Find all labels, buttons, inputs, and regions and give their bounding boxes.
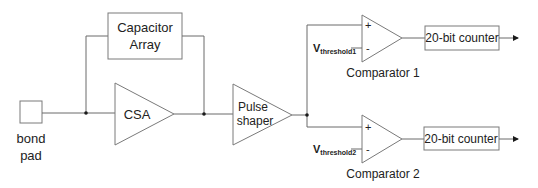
threshold-1-label: Vthreshold1 <box>313 42 356 55</box>
bond-pad-square <box>20 101 42 123</box>
pulse-shaper-label-line2: shaper <box>237 114 274 128</box>
comparator-2-minus-sign: - <box>366 143 370 155</box>
csa-amplifier: CSA <box>115 83 174 145</box>
wire-feedback-left <box>86 36 108 113</box>
bond-pad: bond pad <box>17 101 46 163</box>
signal-chain-diagram: bond pad Capacitor Array CSA Pulse shape… <box>0 0 538 188</box>
counter-1-label: 20-bit counter <box>425 31 498 45</box>
capacitor-array: Capacitor Array <box>108 13 182 59</box>
junction-dot-csa-output <box>202 112 206 116</box>
bond-pad-label-line1: bond <box>17 131 46 146</box>
threshold-1-sub: threshold1 <box>320 48 356 55</box>
counter-2-label: 20-bit counter <box>424 132 497 146</box>
comparator-2-plus-sign: + <box>365 121 371 133</box>
comparator-2: + - Vthreshold2 Comparator 2 <box>313 115 420 181</box>
junction-dot-input <box>84 111 88 115</box>
bond-pad-label-line2: pad <box>20 148 42 163</box>
comparator-1-plus-sign: + <box>365 19 371 31</box>
threshold-2-label: Vthreshold2 <box>313 143 356 156</box>
pulse-shaper-label-line1: Pulse <box>238 100 268 114</box>
comparator-1-label: Comparator 1 <box>346 66 420 80</box>
junction-dot-shaper-output <box>305 113 309 117</box>
counter-1: 20-bit counter <box>425 26 518 50</box>
csa-label: CSA <box>124 107 151 122</box>
comparator-2-label: Comparator 2 <box>346 167 420 181</box>
wire-feedback-right <box>182 36 204 114</box>
capacitor-array-label-line2: Array <box>129 37 161 52</box>
comparator-1-minus-sign: - <box>366 42 370 54</box>
capacitor-array-label-line1: Capacitor <box>117 20 173 35</box>
threshold-2-sub: threshold2 <box>320 149 356 156</box>
pulse-shaper: Pulse shaper <box>233 84 292 145</box>
counter-2: 20-bit counter <box>424 127 518 150</box>
